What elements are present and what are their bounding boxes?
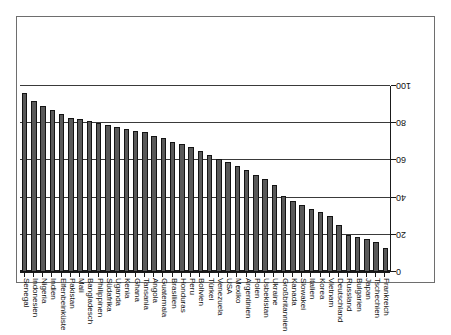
category-label: Argentinien	[244, 278, 252, 318]
bar	[373, 242, 379, 272]
bar-slot	[270, 86, 279, 272]
bar-slot	[94, 86, 103, 272]
category-label: Honduras	[179, 278, 187, 313]
bar-slot	[298, 86, 307, 272]
category-label: Venezuela	[216, 278, 224, 315]
value-tick-label-80: 80	[396, 118, 420, 127]
bar-slot	[242, 86, 251, 272]
bar	[105, 125, 111, 272]
bar-slot	[325, 86, 334, 272]
bar-slot	[196, 86, 205, 272]
bar-slot	[205, 86, 214, 272]
bar	[59, 114, 65, 272]
bar-slot	[131, 86, 140, 272]
category-labels: FrankreichTschechienJapanBulgarienRussla…	[20, 272, 390, 335]
category-label: Angola	[151, 278, 159, 303]
bar	[299, 205, 305, 272]
category-label: Peru	[188, 278, 196, 295]
bar-slot	[20, 86, 29, 272]
bar	[318, 212, 324, 272]
category-label: Senegal	[22, 278, 30, 307]
bar	[290, 201, 296, 272]
bar	[96, 123, 102, 272]
bar	[40, 106, 46, 272]
category-label: Mexiko	[234, 278, 242, 303]
category-label: Mali	[77, 278, 85, 293]
bar-slot	[159, 86, 168, 272]
bar-slot	[85, 86, 94, 272]
category-label: Elfenbeinküste	[59, 278, 67, 330]
category-label: Frankreich	[382, 278, 390, 316]
value-tick-label-60: 60	[396, 155, 420, 164]
value-tick-label-20: 20	[396, 230, 420, 239]
category-label: Korea	[318, 278, 326, 299]
bar	[309, 209, 315, 272]
category-label: Tschechien	[373, 278, 381, 318]
category-label: Nigeria	[40, 278, 48, 303]
bar	[383, 248, 389, 272]
bar	[216, 159, 222, 272]
category-label: Indonesien	[31, 278, 39, 317]
category-label: Polen	[253, 278, 261, 298]
category-label: Usbekistan	[262, 278, 270, 318]
category-label: Guatemala	[160, 278, 168, 317]
bar-slot	[150, 86, 159, 272]
bar	[198, 151, 204, 272]
bar	[262, 179, 268, 272]
category-label: Kanada	[290, 278, 298, 306]
bar	[336, 226, 342, 273]
bar	[225, 162, 231, 272]
bar-slot	[233, 86, 242, 272]
bar	[50, 110, 56, 272]
bar	[327, 216, 333, 272]
bar-slot	[48, 86, 57, 272]
bar-slot	[214, 86, 223, 272]
bar-slot	[316, 86, 325, 272]
bar-slot	[288, 86, 297, 272]
bar-slot	[29, 86, 38, 272]
bar-slot	[66, 86, 75, 272]
bar	[142, 133, 148, 273]
bar-slot	[362, 86, 371, 272]
category-label: Bolivien	[197, 278, 205, 306]
bar	[179, 144, 185, 272]
category-label: Vietnam	[327, 278, 335, 307]
bar	[281, 196, 287, 272]
bar-slot	[353, 86, 362, 272]
value-tick-label-0: 0	[396, 267, 420, 276]
bar	[346, 235, 352, 272]
bar	[124, 129, 130, 272]
bar	[244, 170, 250, 272]
category-label: Russland	[345, 278, 353, 311]
category-label: Tansania	[142, 278, 150, 310]
bar-slot	[168, 86, 177, 272]
category-label: Bulgarien	[355, 278, 363, 312]
category-label: Japan	[364, 278, 372, 300]
bar	[161, 138, 167, 272]
category-label: Ghana	[133, 278, 141, 302]
bar	[77, 119, 83, 272]
value-axis	[390, 86, 391, 272]
bar-slot	[224, 86, 233, 272]
bar-slot	[307, 86, 316, 272]
bar-slot	[261, 86, 270, 272]
bar	[207, 155, 213, 272]
bar-slot	[335, 86, 344, 272]
value-tick-label-40: 40	[396, 193, 420, 202]
bar-slot	[187, 86, 196, 272]
category-label: Brasilien	[170, 278, 178, 309]
bar-slot	[372, 86, 381, 272]
bar-slot	[344, 86, 353, 272]
bar	[22, 93, 28, 272]
category-label: Slowakei	[299, 278, 307, 310]
bar-slot	[122, 86, 131, 272]
category-label: Indien	[49, 278, 57, 300]
bar-slot	[279, 86, 288, 272]
bar-slot	[381, 86, 390, 272]
plot-area: FrankreichTschechienJapanBulgarienRussla…	[20, 86, 390, 272]
value-tick-label-100: 100	[396, 81, 420, 90]
bar-slot	[251, 86, 260, 272]
bar	[272, 185, 278, 272]
bar	[235, 166, 241, 272]
bar-slot	[140, 86, 149, 272]
